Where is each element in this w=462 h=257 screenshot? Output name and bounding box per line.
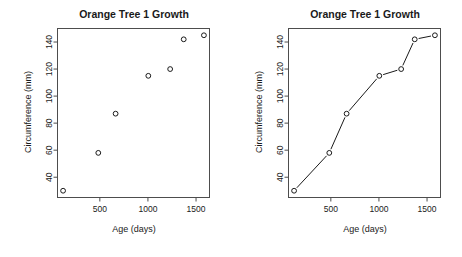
data-point: 1582, 145 <box>202 33 207 38</box>
line-plot-svg: Orange Tree 1 Growth Age (days) Circumfe… <box>231 0 462 257</box>
y-tick-label: 140 <box>275 35 285 49</box>
x-tick-label: 1000 <box>369 204 388 214</box>
y-tick-label: 100 <box>44 89 54 103</box>
data-point: 484, 58 <box>96 150 101 155</box>
chart-title: Orange Tree 1 Growth <box>79 8 189 20</box>
x-tick-labels: 50010001500 <box>93 204 206 214</box>
data-point: 1372, 142 <box>181 37 186 42</box>
data-line-segment <box>419 36 431 38</box>
data-line <box>297 36 431 188</box>
plot-frame <box>58 29 210 198</box>
data-point: 1372, 142 <box>412 37 417 42</box>
x-tick-label: 500 <box>324 204 338 214</box>
chart-title: Orange Tree 1 Growth <box>310 8 420 20</box>
x-tick-marks <box>100 198 196 202</box>
y-tick-label: 120 <box>275 62 285 76</box>
y-tick-label: 60 <box>44 145 54 155</box>
data-line-segment <box>383 70 397 74</box>
y-tick-label: 140 <box>44 35 54 49</box>
chart-panel-left: Orange Tree 1 Growth Age (days) Circumfe… <box>0 0 231 257</box>
x-tick-label: 1500 <box>187 204 206 214</box>
y-tick-label: 40 <box>44 172 54 182</box>
data-point: 1004, 115 <box>146 73 151 78</box>
y-axis-label: Circumference (mm) <box>23 71 33 153</box>
chart-panel-right: Orange Tree 1 Growth Age (days) Circumfe… <box>231 0 462 257</box>
x-axis-label: Age (days) <box>343 224 387 234</box>
x-tick-label: 1500 <box>418 204 437 214</box>
data-point: 118, 30 <box>61 188 66 193</box>
x-tick-labels: 50010001500 <box>324 204 437 214</box>
y-tick-label: 40 <box>275 172 285 182</box>
y-tick-labels: 406080100120140 <box>44 35 54 182</box>
x-axis-label: Age (days) <box>112 224 156 234</box>
data-point: 1004, 115 <box>377 73 382 78</box>
data-point: 664, 87 <box>344 111 349 116</box>
data-points: 118, 30484, 58664, 871004, 1151231, 1201… <box>292 33 438 193</box>
y-tick-label: 120 <box>44 62 54 76</box>
data-line-segment <box>331 117 345 149</box>
data-line-segment <box>403 43 413 65</box>
plot-area-right: 50010001500 406080100120140 118, 30484, … <box>275 29 441 214</box>
y-tick-marks <box>54 42 58 177</box>
data-line-segment <box>297 156 327 188</box>
y-axis-label: Circumference (mm) <box>254 71 264 153</box>
data-point: 1231, 120 <box>399 67 404 72</box>
y-tick-label: 60 <box>275 145 285 155</box>
scatter-plot-svg: Orange Tree 1 Growth Age (days) Circumfe… <box>0 0 231 257</box>
y-tick-label: 80 <box>275 118 285 128</box>
y-tick-label: 100 <box>275 89 285 103</box>
y-tick-marks <box>285 42 289 177</box>
data-points: 118, 30484, 58664, 871004, 1151231, 1201… <box>61 33 207 193</box>
y-tick-label: 80 <box>44 118 54 128</box>
data-point: 484, 58 <box>327 150 332 155</box>
x-tick-label: 1000 <box>138 204 157 214</box>
data-line-segment <box>349 79 376 111</box>
data-point: 664, 87 <box>113 111 118 116</box>
y-tick-labels: 406080100120140 <box>275 35 285 182</box>
plot-area-left: 50010001500 406080100120140 118, 30484, … <box>44 29 210 214</box>
data-point: 118, 30 <box>292 188 297 193</box>
x-tick-label: 500 <box>93 204 107 214</box>
x-tick-marks <box>331 198 427 202</box>
data-point: 1231, 120 <box>168 67 173 72</box>
two-panel-figure: Orange Tree 1 Growth Age (days) Circumfe… <box>0 0 462 257</box>
data-point: 1582, 145 <box>433 33 438 38</box>
